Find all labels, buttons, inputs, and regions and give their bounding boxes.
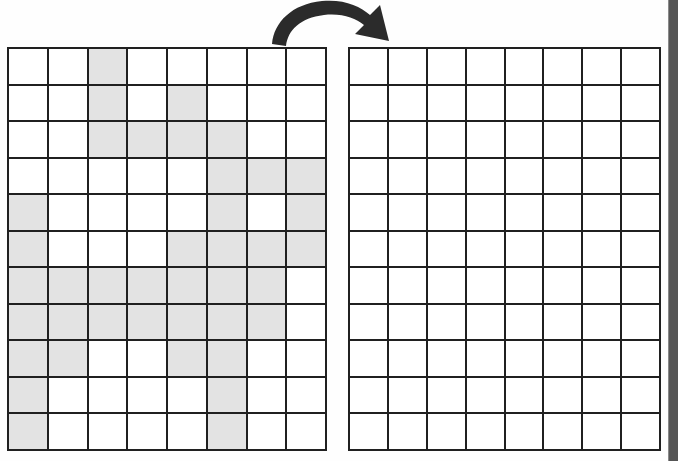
- source-cell-r1-c4[interactable]: [128, 49, 166, 84]
- target-cell-r7-c6[interactable]: [544, 268, 581, 303]
- source-cell-r10-c5[interactable]: [168, 378, 206, 413]
- source-cell-r6-c4[interactable]: [128, 232, 166, 267]
- target-cell-r2-c8[interactable]: [622, 86, 659, 121]
- target-cell-r6-c4[interactable]: [467, 232, 504, 267]
- target-cell-r4-c4[interactable]: [467, 159, 504, 194]
- source-cell-r3-c7[interactable]: [248, 122, 286, 157]
- source-cell-r2-c4[interactable]: [128, 86, 166, 121]
- source-cell-r5-c1[interactable]: [9, 195, 47, 230]
- target-cell-r8-c5[interactable]: [506, 305, 543, 340]
- source-cell-r2-c5[interactable]: [168, 86, 206, 121]
- source-cell-r6-c1[interactable]: [9, 232, 47, 267]
- source-cell-r8-c2[interactable]: [49, 305, 87, 340]
- target-cell-r8-c6[interactable]: [544, 305, 581, 340]
- source-cell-r4-c4[interactable]: [128, 159, 166, 194]
- source-cell-r11-c3[interactable]: [89, 414, 127, 449]
- target-cell-r2-c2[interactable]: [389, 86, 426, 121]
- target-cell-r4-c6[interactable]: [544, 159, 581, 194]
- source-cell-r4-c1[interactable]: [9, 159, 47, 194]
- source-cell-r1-c5[interactable]: [168, 49, 206, 84]
- source-cell-r8-c6[interactable]: [208, 305, 246, 340]
- target-grid[interactable]: [348, 47, 661, 451]
- source-cell-r4-c8[interactable]: [287, 159, 325, 194]
- source-cell-r3-c6[interactable]: [208, 122, 246, 157]
- target-cell-r1-c4[interactable]: [467, 49, 504, 84]
- source-cell-r6-c7[interactable]: [248, 232, 286, 267]
- source-cell-r11-c1[interactable]: [9, 414, 47, 449]
- target-cell-r4-c7[interactable]: [583, 159, 620, 194]
- target-cell-r3-c4[interactable]: [467, 122, 504, 157]
- source-cell-r4-c3[interactable]: [89, 159, 127, 194]
- source-grid[interactable]: [7, 47, 327, 451]
- target-cell-r4-c8[interactable]: [622, 159, 659, 194]
- target-cell-r6-c2[interactable]: [389, 232, 426, 267]
- source-cell-r11-c4[interactable]: [128, 414, 166, 449]
- source-cell-r4-c2[interactable]: [49, 159, 87, 194]
- target-cell-r2-c5[interactable]: [506, 86, 543, 121]
- source-cell-r1-c1[interactable]: [9, 49, 47, 84]
- source-cell-r5-c3[interactable]: [89, 195, 127, 230]
- source-cell-r11-c7[interactable]: [248, 414, 286, 449]
- source-cell-r9-c7[interactable]: [248, 341, 286, 376]
- target-cell-r3-c6[interactable]: [544, 122, 581, 157]
- source-cell-r7-c6[interactable]: [208, 268, 246, 303]
- target-cell-r6-c6[interactable]: [544, 232, 581, 267]
- source-cell-r8-c1[interactable]: [9, 305, 47, 340]
- source-cell-r8-c3[interactable]: [89, 305, 127, 340]
- source-cell-r6-c3[interactable]: [89, 232, 127, 267]
- target-cell-r5-c1[interactable]: [350, 195, 387, 230]
- source-cell-r8-c7[interactable]: [248, 305, 286, 340]
- source-cell-r2-c6[interactable]: [208, 86, 246, 121]
- target-cell-r4-c1[interactable]: [350, 159, 387, 194]
- target-cell-r10-c2[interactable]: [389, 378, 426, 413]
- target-cell-r1-c8[interactable]: [622, 49, 659, 84]
- source-cell-r11-c5[interactable]: [168, 414, 206, 449]
- source-cell-r5-c4[interactable]: [128, 195, 166, 230]
- source-cell-r6-c2[interactable]: [49, 232, 87, 267]
- target-cell-r10-c7[interactable]: [583, 378, 620, 413]
- target-cell-r1-c3[interactable]: [428, 49, 465, 84]
- source-cell-r7-c1[interactable]: [9, 268, 47, 303]
- source-cell-r9-c5[interactable]: [168, 341, 206, 376]
- source-cell-r5-c8[interactable]: [287, 195, 325, 230]
- target-cell-r11-c1[interactable]: [350, 414, 387, 449]
- target-cell-r5-c6[interactable]: [544, 195, 581, 230]
- source-cell-r2-c1[interactable]: [9, 86, 47, 121]
- target-cell-r1-c7[interactable]: [583, 49, 620, 84]
- source-cell-r11-c2[interactable]: [49, 414, 87, 449]
- source-cell-r8-c5[interactable]: [168, 305, 206, 340]
- source-cell-r6-c5[interactable]: [168, 232, 206, 267]
- source-cell-r11-c6[interactable]: [208, 414, 246, 449]
- target-cell-r2-c6[interactable]: [544, 86, 581, 121]
- target-cell-r5-c5[interactable]: [506, 195, 543, 230]
- target-cell-r5-c7[interactable]: [583, 195, 620, 230]
- target-cell-r7-c7[interactable]: [583, 268, 620, 303]
- target-cell-r3-c3[interactable]: [428, 122, 465, 157]
- target-cell-r2-c3[interactable]: [428, 86, 465, 121]
- source-cell-r4-c7[interactable]: [248, 159, 286, 194]
- source-cell-r9-c2[interactable]: [49, 341, 87, 376]
- source-cell-r3-c1[interactable]: [9, 122, 47, 157]
- target-cell-r4-c2[interactable]: [389, 159, 426, 194]
- source-cell-r10-c7[interactable]: [248, 378, 286, 413]
- target-cell-r9-c3[interactable]: [428, 341, 465, 376]
- target-cell-r3-c2[interactable]: [389, 122, 426, 157]
- vertical-scrollbar[interactable]: [668, 0, 677, 461]
- source-cell-r2-c2[interactable]: [49, 86, 87, 121]
- source-cell-r5-c5[interactable]: [168, 195, 206, 230]
- target-cell-r6-c8[interactable]: [622, 232, 659, 267]
- target-cell-r11-c3[interactable]: [428, 414, 465, 449]
- target-cell-r8-c7[interactable]: [583, 305, 620, 340]
- target-cell-r5-c3[interactable]: [428, 195, 465, 230]
- source-cell-r8-c4[interactable]: [128, 305, 166, 340]
- source-cell-r7-c5[interactable]: [168, 268, 206, 303]
- source-cell-r7-c2[interactable]: [49, 268, 87, 303]
- target-cell-r11-c7[interactable]: [583, 414, 620, 449]
- target-cell-r8-c1[interactable]: [350, 305, 387, 340]
- target-cell-r9-c8[interactable]: [622, 341, 659, 376]
- target-cell-r4-c3[interactable]: [428, 159, 465, 194]
- source-cell-r8-c8[interactable]: [287, 305, 325, 340]
- source-cell-r1-c8[interactable]: [287, 49, 325, 84]
- target-cell-r7-c2[interactable]: [389, 268, 426, 303]
- target-cell-r6-c1[interactable]: [350, 232, 387, 267]
